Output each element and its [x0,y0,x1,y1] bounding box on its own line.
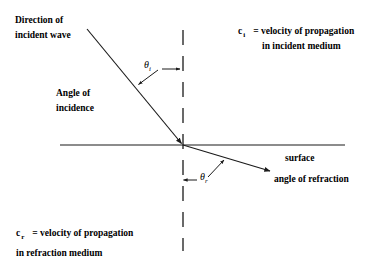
angle-of-refraction-label: angle of refraction [274,172,349,186]
theta-refraction-label: θr [200,171,208,185]
refraction-diagram-figure: Direction of incident wave Angle of inci… [0,0,378,276]
c-refraction-variable: c [16,228,20,238]
angle-of-incidence-label: Angle of incidence [56,86,94,116]
incident-ray [87,29,182,144]
theta-r-pointer-to-ray-icon [208,160,224,177]
direction-line-2: incident wave [15,28,71,43]
angle-line-1: Angle of [56,86,94,101]
c-incident-subscript: i [243,31,248,39]
c-incident-variable: c [238,26,242,36]
c-refraction-definition-line-1: = velocity of propagation [32,226,133,240]
c-incident-definition-line-2: in incident medium [262,39,354,53]
direction-of-incident-wave-label: Direction of incident wave [15,13,71,43]
theta-incident-label: θi [144,59,151,73]
refracted-ray [183,145,270,171]
c-refraction-definition-line-2: in refraction medium [16,246,133,260]
c-incident-definition-line-1: = velocity of propagation [253,24,354,38]
c-refraction-subscript: r [21,233,27,241]
direction-line-1: Direction of [15,13,71,28]
angle-line-2: incidence [56,101,94,116]
c-refraction-legend: cr= velocity of propagation in refractio… [16,226,133,260]
theta-incident-subscript: i [149,65,151,73]
theta-refraction-subscript: r [205,177,208,185]
surface-label: surface [285,151,315,165]
c-incident-legend: ci= velocity of propagation in incident … [238,24,354,53]
